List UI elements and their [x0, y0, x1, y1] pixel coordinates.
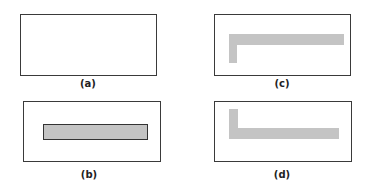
panel-d-label: (d)	[262, 169, 302, 181]
panel-a-frame	[20, 14, 157, 76]
panel-b-bar	[43, 124, 148, 140]
panel-d-horizontal-bar	[229, 128, 339, 139]
panel-c-vertical-leg	[229, 34, 237, 63]
panel-c-label: (c)	[262, 78, 302, 90]
panel-b-label: (b)	[69, 169, 109, 181]
panel-a-label: (a)	[68, 78, 108, 90]
panel-c-horizontal-bar	[229, 34, 344, 45]
